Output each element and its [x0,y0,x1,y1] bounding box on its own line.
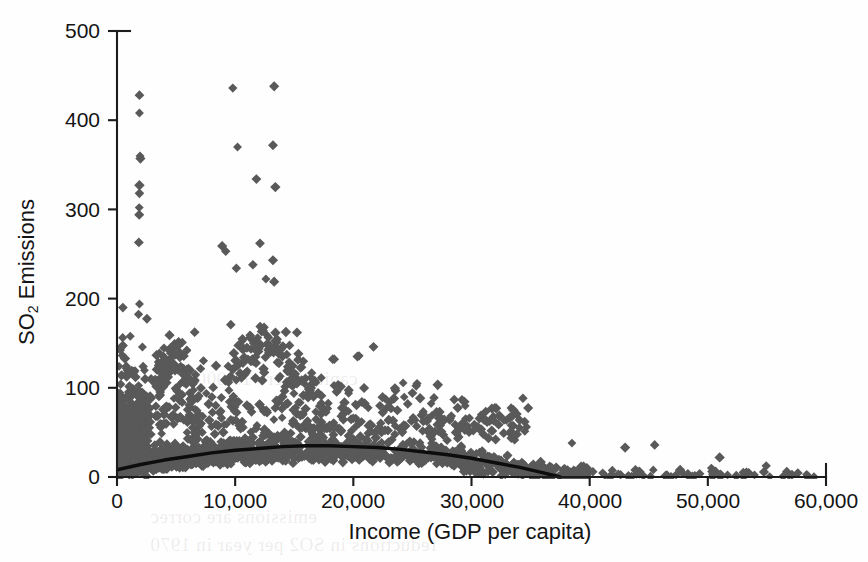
y-tick-label: 500 [38,19,100,43]
data-point-marker [352,351,362,361]
data-point-marker [270,182,280,192]
y-axis-title-rest: Emissions [14,199,39,305]
data-point-marker [278,413,287,422]
data-point-marker [226,320,236,330]
data-point-marker [134,310,143,319]
data-point-marker [269,81,279,91]
data-point-marker [233,143,242,152]
data-point-marker [135,300,144,309]
data-point-marker [523,403,533,413]
x-tick-label: 50,000 [676,489,740,513]
data-point-marker [399,379,408,388]
data-point-marker [134,237,144,247]
data-point-marker [208,383,218,393]
data-point-marker [248,260,258,270]
data-point-marker [268,140,278,150]
data-point-marker [270,415,279,424]
data-point-marker [135,90,145,100]
y-tick-label: 300 [38,198,100,222]
data-point-marker [289,389,298,398]
data-point-marker [620,442,630,452]
data-point-marker [261,274,270,283]
data-point-marker [217,393,226,402]
data-point-marker [228,83,237,92]
plot-canvas [0,0,868,562]
y-axis-title-main: SO [14,313,39,345]
data-point-marker [126,332,135,341]
data-point-marker [292,327,302,337]
data-point-marker [164,330,174,340]
data-point-marker [650,440,660,450]
data-point-marker [518,393,527,402]
x-tick-label: 0 [111,489,123,513]
y-tick-label: 400 [38,108,100,132]
data-point-marker [199,356,208,365]
data-point-marker [714,452,724,462]
data-point-marker [330,355,339,364]
y-tick-label: 0 [38,465,100,489]
data-point-marker [232,264,241,273]
data-point-marker [269,277,279,287]
x-tick-label: 60,000 [794,489,858,513]
x-tick-label: 10,000 [203,489,267,513]
data-point-marker [281,327,292,338]
y-tick-label: 100 [38,376,100,400]
data-point-marker [359,383,369,393]
data-point-layer [112,81,819,482]
x-axis-title-text: Income (GDP per capita) [349,519,592,545]
x-tick-label: 30,000 [440,489,504,513]
x-tick-label: 40,000 [558,489,622,513]
data-point-marker [135,189,145,199]
data-point-marker [211,361,221,371]
data-point-marker [432,380,443,391]
data-point-marker [415,393,426,404]
y-axis-title: SO2 Emissions [14,199,40,345]
data-point-marker [268,255,278,265]
data-point-marker [255,238,265,248]
data-point-marker [138,342,147,351]
data-point-marker [568,439,577,448]
y-axis-title-subscript: 2 [25,305,41,313]
x-tick-label: 20,000 [321,489,385,513]
data-point-marker [118,303,128,313]
data-point-marker [190,327,200,337]
data-point-marker [135,109,144,118]
scatter-plot-figure: capita) were 15,000 emissions are correc… [0,0,868,562]
data-point-marker [491,434,501,444]
data-point-marker [369,342,379,352]
data-point-marker [251,174,261,184]
x-axis-title: Income (GDP per capita) [0,519,868,545]
data-point-marker [142,314,152,324]
data-point-marker [134,210,144,220]
y-tick-label: 200 [38,287,100,311]
